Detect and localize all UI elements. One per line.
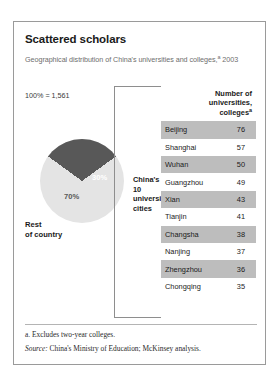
row-value: 43	[237, 195, 245, 204]
row-value: 76	[237, 125, 245, 134]
subtitle-footnote-marker: a	[217, 54, 220, 60]
footnote: a. Excludes two-year colleges.	[25, 330, 257, 339]
table-row: Beijing 76	[161, 121, 256, 138]
row-city: Tianjin	[165, 212, 187, 221]
table-column-header: Number of universities, collegesa	[161, 86, 256, 121]
footnote-divider	[25, 324, 257, 325]
row-city: Chongqing	[165, 282, 201, 291]
table-row: Wuhan 50	[161, 156, 256, 173]
pie-label-top-10-cities: 30%	[92, 173, 107, 182]
table-row: Tianjin 41	[161, 208, 256, 225]
row-value: 36	[237, 265, 245, 274]
table-row: Shanghai 57	[161, 139, 256, 156]
row-city: Guangzhou	[165, 178, 203, 187]
header-line-2: universities,	[209, 98, 252, 107]
header-line-1: Number of	[215, 89, 252, 98]
exhibit-subtitle: Geographical distribution of China's uni…	[25, 55, 257, 64]
subtitle-year: 2003	[222, 55, 238, 64]
source-prefix: Source:	[25, 344, 48, 353]
row-city: Beijing	[165, 125, 187, 134]
row-city: Nanjing	[165, 247, 190, 256]
table-row: Chongqing 35	[161, 278, 256, 295]
row-value: 50	[237, 160, 245, 169]
row-city: Wuhan	[165, 160, 188, 169]
row-city: Shanghai	[165, 143, 196, 152]
pie-label-rest-of-country: 70%	[64, 192, 79, 201]
row-value: 38	[237, 230, 245, 239]
rest-label-line1: Rest	[25, 220, 41, 229]
row-value: 37	[237, 247, 245, 256]
row-city: Zhengzhou	[165, 265, 202, 274]
row-city: Changsha	[165, 230, 199, 239]
source-line: Source: China's Ministry of Education; M…	[25, 344, 257, 353]
page-title: Scattered scholars	[25, 33, 126, 45]
header-footnote-marker: a	[249, 106, 252, 112]
pie-slice-top-10-cities	[40, 139, 124, 223]
row-value: 57	[237, 143, 245, 152]
exhibit-panel: Scattered scholars Geographical distribu…	[13, 21, 266, 365]
pie-chart: 30% 70%	[40, 139, 124, 223]
rest-of-country-label: Rest of country	[25, 220, 62, 240]
row-value: 49	[237, 178, 245, 187]
source-text: China's Ministry of Education; McKinsey …	[50, 344, 201, 353]
row-city: Xian	[165, 195, 180, 204]
table-row: Xian 43	[161, 191, 256, 208]
header-line-3: colleges	[219, 108, 249, 117]
table-row: Guangzhou 49	[161, 173, 256, 190]
row-value: 35	[237, 282, 245, 291]
table-row: Changsha 38	[161, 226, 256, 243]
city-table: Number of universities, collegesa Beijin…	[161, 86, 256, 295]
table-row: Zhengzhou 36	[161, 260, 256, 277]
rest-label-line2: of country	[25, 230, 62, 239]
row-value: 41	[237, 212, 245, 221]
subtitle-text: Geographical distribution of China's uni…	[25, 55, 217, 64]
table-row: Nanjing 37	[161, 243, 256, 260]
pie-total-label: 100% = 1,561	[25, 91, 70, 100]
